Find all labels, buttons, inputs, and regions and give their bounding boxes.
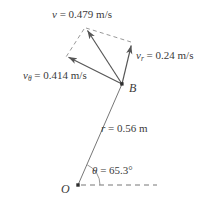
label-velocity-value: = 0.479 m/s: [57, 8, 112, 20]
point-marker-B: [120, 82, 123, 85]
label-transverse-velocity-value: = 0.414 m/s: [32, 69, 87, 81]
label-velocity: v = 0.479 m/s: [52, 9, 112, 20]
point-marker-O: [76, 183, 79, 186]
label-radius: r = 0.56 m: [101, 123, 148, 134]
label-transverse-velocity: vθ = 0.414 m/s: [23, 70, 87, 81]
label-radial-velocity-value: = 0.24 m/s: [144, 49, 194, 61]
parallelogram-side-a-line: [86, 28, 131, 42]
label-angle-value: = 65.3°: [97, 164, 132, 176]
label-radius-value: = 0.56 m: [105, 122, 147, 134]
label-radial-velocity: vr = 0.24 m/s: [136, 50, 193, 61]
parallelogram-side-b-line: [66, 29, 84, 57]
vector-diagram: v = 0.479 m/s vr = 0.24 m/s vθ = 0.414 m…: [0, 0, 218, 200]
point-label-B: B: [129, 82, 136, 94]
label-transverse-velocity-subscript: θ: [28, 74, 32, 83]
velocity-vector-vr: [122, 46, 131, 85]
label-radial-velocity-subscript: r: [141, 54, 144, 63]
label-angle: θ = 65.3°: [92, 165, 133, 176]
point-label-O: O: [61, 183, 70, 195]
